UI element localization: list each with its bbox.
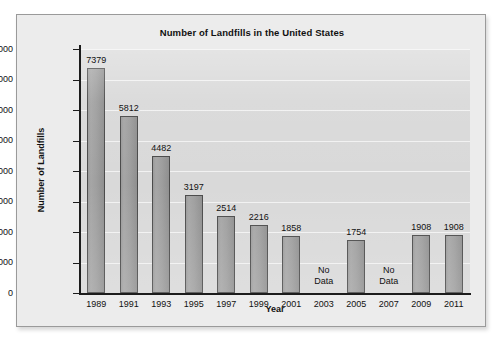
bar-value-label: 7379: [72, 55, 120, 65]
y-axis-tick: [73, 49, 79, 50]
gridline: [80, 80, 470, 81]
y-axis-tick-label: 4,000: [0, 166, 13, 176]
bar-value-label: 1908: [430, 222, 478, 232]
y-axis-tick-label: 1,000: [0, 257, 13, 267]
y-axis-tick: [73, 202, 79, 203]
y-axis-title: Number of Landfills: [36, 90, 46, 250]
no-data-label-line: No: [300, 265, 348, 276]
y-axis-tick-label: 8,000: [0, 44, 13, 54]
y-axis-tick: [73, 141, 79, 142]
bar: [250, 225, 268, 293]
y-axis-tick-label: 6,000: [0, 105, 13, 115]
chart-title: Number of Landfills in the United States: [17, 27, 487, 38]
plot-area: [80, 49, 470, 293]
chart-card: Number of Landfills in the United States…: [16, 14, 486, 327]
bar: [120, 116, 138, 293]
no-data-label: NoData: [365, 265, 413, 286]
bar: [185, 195, 203, 293]
bar: [87, 68, 105, 293]
x-axis-line: [79, 293, 471, 295]
bar-value-label: 1754: [332, 227, 380, 237]
bar-value-label: 5812: [105, 103, 153, 113]
chart-figure: Number of Landfills in the United States…: [0, 0, 503, 349]
no-data-label-line: No: [365, 265, 413, 276]
gridline: [80, 49, 470, 50]
gridline: [80, 141, 470, 142]
no-data-label-line: Data: [300, 276, 348, 287]
bar: [152, 156, 170, 293]
no-data-label: NoData: [300, 265, 348, 286]
bar: [217, 216, 235, 293]
bar-value-label: 3197: [170, 182, 218, 192]
y-axis-tick: [73, 80, 79, 81]
bar-value-label: 1858: [267, 223, 315, 233]
y-axis-tick-label: 2,000: [0, 227, 13, 237]
gridline: [80, 171, 470, 172]
y-axis-tick: [73, 171, 79, 172]
y-axis-tick-label: 3,000: [0, 196, 13, 206]
y-axis-tick-label: 5,000: [0, 135, 13, 145]
y-axis-tick: [73, 110, 79, 111]
x-axis-tick-label: 2011: [430, 299, 478, 309]
bar: [445, 235, 463, 293]
bar: [412, 235, 430, 293]
gridline: [80, 202, 470, 203]
bar-value-label: 4482: [137, 143, 185, 153]
y-axis-tick-label: 7,000: [0, 74, 13, 84]
y-axis-tick: [73, 232, 79, 233]
bar: [347, 240, 365, 293]
y-axis-tick-label: 0: [0, 288, 13, 298]
y-axis-tick: [73, 263, 79, 264]
y-axis-line: [79, 45, 81, 295]
y-axis-tick: [73, 293, 79, 294]
bar: [282, 236, 300, 293]
bar-value-label: 2216: [235, 212, 283, 222]
no-data-label-line: Data: [365, 276, 413, 287]
